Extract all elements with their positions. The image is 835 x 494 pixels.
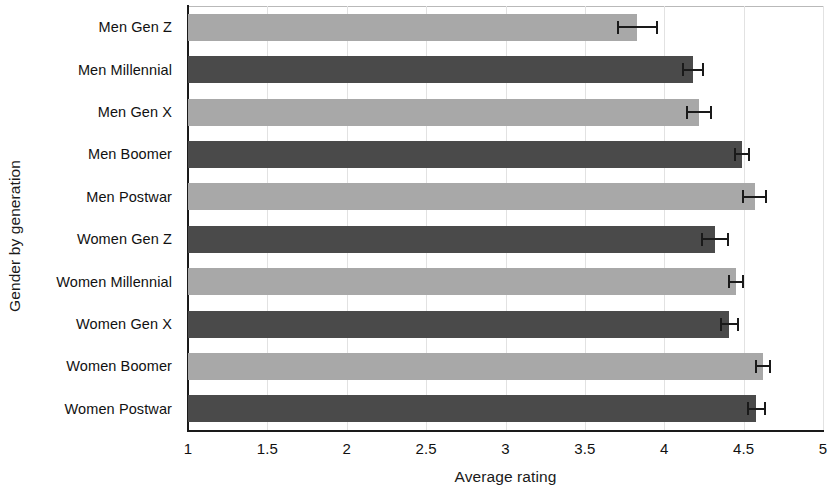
bar[interactable] xyxy=(188,353,763,380)
bar[interactable] xyxy=(188,311,729,338)
x-tick-label: 4.5 xyxy=(733,440,754,457)
error-bar-cap-high xyxy=(769,360,771,373)
bar[interactable] xyxy=(188,99,699,126)
x-tick-label: 1 xyxy=(184,440,193,457)
bar-chart: Gender by generation Men Gen ZMen Millen… xyxy=(0,0,835,494)
error-bar-cap-low xyxy=(742,190,744,203)
bar-row[interactable] xyxy=(188,14,823,41)
error-bar xyxy=(742,196,767,198)
x-tick-label: 3 xyxy=(501,440,510,457)
bar[interactable] xyxy=(188,56,693,83)
x-axis-tick-labels: 11.522.533.544.55 xyxy=(188,440,823,464)
category-label: Women Boomer xyxy=(66,357,172,375)
error-bar-cap-high xyxy=(737,318,739,331)
x-tick-label: 2.5 xyxy=(415,440,436,457)
error-bar-cap-high xyxy=(656,21,658,34)
error-bar-cap-high xyxy=(742,275,744,288)
bar[interactable] xyxy=(188,183,755,210)
error-bar-cap-high xyxy=(727,233,729,246)
x-tick-label: 5 xyxy=(819,440,828,457)
bar[interactable] xyxy=(188,395,756,422)
bar-row[interactable] xyxy=(188,183,823,210)
category-label: Women Gen Z xyxy=(77,230,172,248)
x-tick-label: 1.5 xyxy=(257,440,278,457)
x-tick-label: 4 xyxy=(660,440,669,457)
bar-row[interactable] xyxy=(188,353,823,380)
error-bar-cap-high xyxy=(748,148,750,161)
error-bar xyxy=(701,238,730,240)
error-bar-cap-low xyxy=(747,402,749,415)
x-tick-label: 3.5 xyxy=(574,440,595,457)
category-label: Men Millennial xyxy=(78,61,172,79)
category-label: Men Gen X xyxy=(98,103,172,121)
category-label: Men Postwar xyxy=(86,188,172,206)
error-bar xyxy=(682,69,704,71)
error-bar xyxy=(686,111,711,113)
error-bar-cap-low xyxy=(720,318,722,331)
category-label: Men Gen Z xyxy=(99,18,172,36)
error-bar-cap-high xyxy=(765,190,767,203)
error-bar-cap-high xyxy=(710,106,712,119)
error-bar-cap-low xyxy=(617,21,619,34)
bar-row[interactable] xyxy=(188,395,823,422)
x-axis-title: Average rating xyxy=(188,468,823,486)
bar-row[interactable] xyxy=(188,99,823,126)
bar[interactable] xyxy=(188,141,742,168)
gridline xyxy=(823,6,824,430)
x-axis-line xyxy=(187,430,824,432)
error-bar-cap-low xyxy=(701,233,703,246)
error-bar xyxy=(617,26,658,28)
category-axis-labels: Men Gen ZMen MillennialMen Gen XMen Boom… xyxy=(0,6,180,430)
error-bar-cap-high xyxy=(702,63,704,76)
error-bar-cap-low xyxy=(728,275,730,288)
bar[interactable] xyxy=(188,226,715,253)
plot-area xyxy=(188,6,823,430)
category-label: Women Millennial xyxy=(56,273,172,291)
category-label: Women Gen X xyxy=(76,315,172,333)
category-label: Women Postwar xyxy=(65,400,172,418)
error-bar-cap-high xyxy=(764,402,766,415)
error-bar-cap-low xyxy=(682,63,684,76)
x-tick-label: 2 xyxy=(342,440,351,457)
error-bar-cap-low xyxy=(734,148,736,161)
bar-row[interactable] xyxy=(188,141,823,168)
category-label: Men Boomer xyxy=(88,145,172,163)
bar[interactable] xyxy=(188,268,736,295)
error-bar-cap-low xyxy=(755,360,757,373)
bar[interactable] xyxy=(188,14,637,41)
error-bar-cap-low xyxy=(686,106,688,119)
bar-row[interactable] xyxy=(188,56,823,83)
